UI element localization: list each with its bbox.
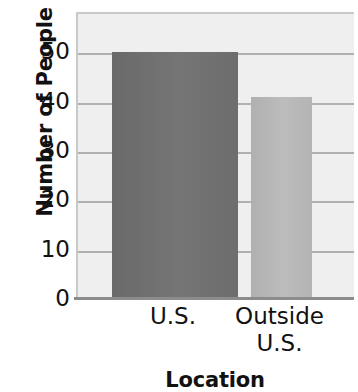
plot-area (76, 12, 354, 299)
y-axis-tick-label: 20 (22, 188, 70, 211)
x-axis-line (74, 297, 354, 300)
x-axis-tick-label-line: Outside (195, 303, 358, 330)
y-axis-tick-label: 10 (22, 237, 70, 260)
x-axis-title: Location (76, 368, 354, 392)
y-axis-tick-label: 30 (22, 139, 70, 162)
x-axis-tick-labels: U.S.OutsideU.S. (0, 303, 352, 373)
y-axis-tick-label: 50 (22, 40, 70, 63)
y-axis-tick-label: 40 (22, 89, 70, 112)
x-axis-tick-label-line: U.S. (195, 330, 358, 357)
x-axis-tick-label: OutsideU.S. (195, 303, 358, 357)
bar-us (112, 52, 238, 299)
bar-outside-us (251, 97, 312, 299)
